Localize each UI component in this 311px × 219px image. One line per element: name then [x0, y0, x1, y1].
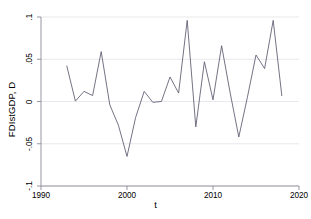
- chart-container: FDIstGDP, D t 1990 2000 2010 2020 .1 .05…: [0, 0, 311, 219]
- x-tick-label-2020: 2020: [290, 191, 308, 200]
- x-tick-label-2000: 2000: [118, 191, 136, 200]
- chart-plot-area: [0, 0, 311, 219]
- gridlines: [41, 17, 299, 186]
- y-tick-label-neg-0-05: -.05: [24, 136, 36, 152]
- axis-ticks: [37, 17, 299, 190]
- y-tick-label-0-1: .1: [24, 9, 36, 25]
- x-axis-title: t: [0, 199, 311, 210]
- y-tick-label-neg-0-1: -.1: [24, 178, 36, 194]
- series-line-fdistgdp: [67, 20, 282, 156]
- x-tick-label-2010: 2010: [204, 191, 222, 200]
- y-tick-label-0-05: .05: [24, 51, 36, 67]
- y-tick-label-0: 0: [24, 94, 36, 110]
